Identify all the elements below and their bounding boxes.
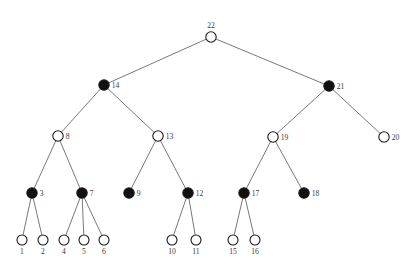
tree-node-label-7: 7: [90, 189, 94, 198]
tree-node-label-4: 4: [62, 247, 66, 256]
tree-edge: [66, 198, 80, 235]
tree-node-2[interactable]: [38, 235, 48, 245]
tree-edge: [174, 198, 187, 235]
tree-node-10[interactable]: [167, 235, 177, 245]
tree-node-12[interactable]: [183, 188, 193, 198]
tree-node-19[interactable]: [268, 132, 278, 142]
tree-edge: [246, 142, 270, 188]
tree-edge: [245, 198, 254, 235]
tree-node-9[interactable]: [124, 188, 134, 198]
tree-node-6[interactable]: [99, 235, 109, 245]
tree-edge: [216, 39, 324, 84]
tree-edge: [161, 141, 186, 188]
tree-node-label-15: 15: [229, 247, 237, 256]
tree-edge: [333, 90, 380, 134]
tree-node-5[interactable]: [79, 235, 89, 245]
tree-node-label-20: 20: [392, 133, 400, 142]
tree-node-21[interactable]: [324, 81, 334, 91]
tree-edge: [33, 198, 42, 235]
tree-node-label-21: 21: [337, 82, 345, 91]
tree-graph-canvas: 12345678910111213141516171819202122: [0, 0, 417, 276]
tree-node-8[interactable]: [53, 131, 63, 141]
tree-edge: [60, 141, 80, 188]
tree-node-label-3: 3: [40, 189, 44, 198]
tree-node-22[interactable]: [206, 32, 216, 42]
tree-node-label-8: 8: [66, 132, 70, 141]
tree-edges-layer: [23, 39, 380, 235]
tree-node-14[interactable]: [99, 80, 109, 90]
tree-node-labels-layer: 12345678910111213141516171819202122: [20, 21, 399, 256]
tree-node-label-18: 18: [312, 189, 320, 198]
tree-node-20[interactable]: [379, 132, 389, 142]
tree-edge: [34, 141, 56, 188]
tree-diagram-figure: 12345678910111213141516171819202122: [0, 0, 417, 276]
tree-node-label-10: 10: [168, 247, 176, 256]
tree-edge: [109, 39, 206, 83]
tree-edge: [108, 89, 154, 133]
tree-node-label-5: 5: [82, 247, 86, 256]
tree-node-label-1: 1: [20, 247, 24, 256]
tree-edge: [23, 198, 31, 235]
tree-node-11[interactable]: [191, 235, 201, 245]
tree-node-16[interactable]: [250, 235, 260, 245]
tree-edge: [84, 198, 102, 235]
tree-edge: [62, 89, 101, 132]
tree-node-1[interactable]: [17, 235, 27, 245]
tree-edge: [82, 198, 84, 234]
tree-node-label-22: 22: [207, 21, 215, 30]
tree-node-label-17: 17: [252, 189, 260, 198]
tree-node-label-11: 11: [192, 247, 200, 256]
tree-node-7[interactable]: [77, 188, 87, 198]
tree-node-13[interactable]: [153, 131, 163, 141]
tree-node-18[interactable]: [299, 188, 309, 198]
tree-node-label-14: 14: [112, 81, 120, 90]
tree-node-label-9: 9: [137, 189, 141, 198]
tree-node-label-19: 19: [281, 133, 289, 142]
tree-node-label-12: 12: [196, 189, 204, 198]
tree-node-4[interactable]: [59, 235, 69, 245]
tree-node-15[interactable]: [228, 235, 238, 245]
tree-edge: [276, 142, 302, 189]
tree-edge: [234, 198, 243, 235]
tree-node-3[interactable]: [27, 188, 37, 198]
tree-nodes-layer: [17, 32, 389, 245]
tree-edge: [189, 198, 195, 235]
tree-node-label-2: 2: [41, 247, 45, 256]
tree-edge: [277, 90, 325, 134]
tree-node-label-6: 6: [102, 247, 106, 256]
tree-node-17[interactable]: [239, 188, 249, 198]
tree-edge: [131, 141, 155, 188]
tree-node-label-16: 16: [251, 247, 259, 256]
tree-node-label-13: 13: [166, 132, 174, 141]
